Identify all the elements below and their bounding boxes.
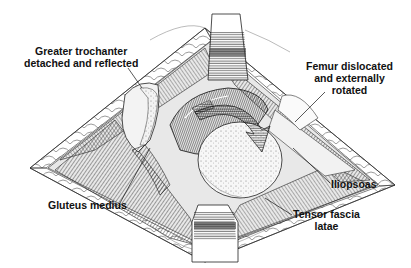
femoral-head bbox=[198, 122, 282, 198]
label-femur-dislocated: Femur dislocated and externally rotated bbox=[306, 60, 393, 96]
label-tensor-fascia-latae: Tensor fascia latae bbox=[293, 208, 360, 232]
label-iliopsoas: Iliopsoas bbox=[331, 178, 377, 190]
label-gluteus-medius: Gluteus medius bbox=[48, 199, 127, 211]
retractor-top bbox=[208, 14, 248, 80]
retractor-bottom bbox=[192, 205, 238, 262]
label-greater-trochanter: Greater trochanter detached and reflecte… bbox=[24, 45, 138, 69]
